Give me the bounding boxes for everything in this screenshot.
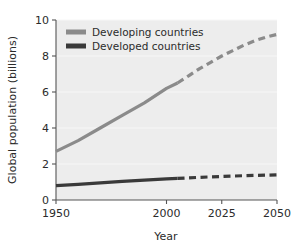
- y-axis-title: Global population (billions): [6, 36, 19, 184]
- x-tick-label: 2000: [153, 207, 181, 220]
- chart-canvas: 0246810 1950200020252050 Developing coun…: [0, 0, 295, 250]
- y-tick-label: 10: [35, 14, 49, 27]
- legend-label-1: Developed countries: [92, 40, 200, 52]
- population-projection-chart: 0246810 1950200020252050 Developing coun…: [0, 0, 295, 250]
- x-tick-label: 2025: [208, 207, 236, 220]
- y-tick-label: 2: [42, 158, 49, 171]
- legend-label-0: Developing countries: [92, 26, 204, 38]
- y-tick-label: 4: [42, 122, 49, 135]
- y-tick-label: 6: [42, 86, 49, 99]
- x-tick-label: 1950: [42, 207, 70, 220]
- x-tick-label: 2050: [263, 207, 291, 220]
- x-axis-title: Year: [153, 230, 178, 243]
- y-axis-ticks: 0246810: [35, 14, 56, 207]
- x-axis-ticks: 1950200020252050: [42, 200, 291, 220]
- y-tick-label: 0: [42, 194, 49, 207]
- y-tick-label: 8: [42, 50, 49, 63]
